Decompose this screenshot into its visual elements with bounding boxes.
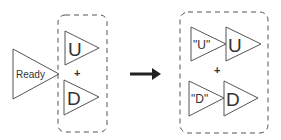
u-label-right: U (228, 35, 242, 56)
left-group: Ready U + D (13, 15, 107, 132)
d-label: D (67, 88, 81, 109)
quoted-d-label: "D" (191, 92, 208, 106)
plus-operator: + (74, 67, 80, 79)
diagram-canvas: Ready U + D "U" U + "D" D (0, 0, 281, 140)
plus-operator-right: + (214, 64, 220, 76)
quoted-u-label: "U" (193, 38, 210, 52)
right-group: "U" U + "D" D (180, 12, 268, 133)
u-label: U (68, 39, 82, 60)
ready-label: Ready (16, 69, 45, 80)
d-label-right: D (226, 89, 240, 110)
right-arrow-icon (130, 68, 161, 80)
